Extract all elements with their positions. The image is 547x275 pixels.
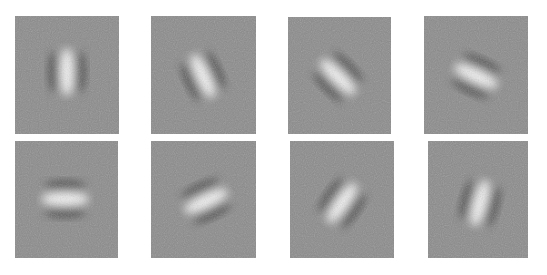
filter-panel (15, 141, 118, 258)
filter-panel (151, 16, 256, 134)
filter-panel (151, 141, 256, 258)
filter-panel (15, 16, 119, 134)
filter-panel (428, 141, 528, 258)
filter-panel (290, 141, 394, 258)
filter-panel (424, 16, 528, 134)
filter-panel (288, 17, 391, 134)
